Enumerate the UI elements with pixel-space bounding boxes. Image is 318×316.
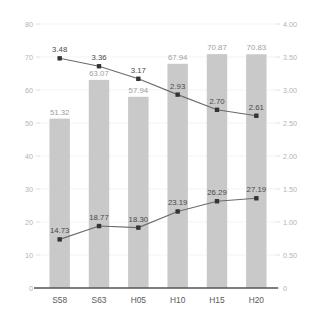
right-axis-tick-label: 4.00: [283, 20, 297, 29]
bar-value-label: 57.94: [129, 86, 149, 95]
bar-value-label: 70.83: [247, 43, 267, 52]
line-value-label: 2.93: [170, 82, 185, 91]
line-value-label: 26.29: [207, 188, 227, 197]
left-axis-tick-label: 20: [25, 218, 33, 227]
left-axis-tick-label: 40: [25, 152, 33, 161]
line-marker: [136, 225, 140, 229]
line-marker: [215, 108, 219, 112]
left-axis-tick-label: 80: [25, 20, 33, 29]
line-value-label: 3.17: [131, 66, 146, 75]
left-axis-tick-label: 60: [25, 86, 33, 95]
bar: [128, 97, 148, 288]
left-axis-tick-label: 10: [25, 251, 33, 260]
bar: [246, 54, 266, 288]
line-marker: [175, 92, 179, 96]
right-axis-tick-label: 0.50: [283, 251, 297, 260]
category-label: H15: [209, 295, 225, 305]
category-label: S58: [52, 295, 67, 305]
bar-value-labels-group: 51.3263.0757.9467.9470.8770.83: [50, 43, 266, 117]
line-marker: [136, 77, 140, 81]
category-label: H20: [249, 295, 265, 305]
right-axis-tick-label: 3.50: [283, 53, 297, 62]
line-marker: [97, 64, 101, 68]
line-value-label: 2.70: [209, 97, 225, 106]
right-axis-tick-label: 1.00: [283, 218, 297, 227]
bar-value-label: 67.94: [168, 53, 188, 62]
gridlines-group: [40, 24, 276, 255]
chart-container: 01020304050607080 00.501.001.502.002.503…: [0, 0, 318, 316]
right-axis-tick-label: 2.00: [283, 152, 297, 161]
line-marker: [97, 224, 101, 228]
right-axis-tick-label: 1.50: [283, 185, 297, 194]
line-marker: [57, 237, 61, 241]
line-value-label: 23.19: [168, 198, 188, 207]
category-label: H10: [170, 295, 186, 305]
line-marker: [254, 196, 258, 200]
left-axis-tick-label: 70: [25, 53, 33, 62]
line-value-labels-group: 3.483.363.172.932.702.6114.7318.7718.302…: [50, 45, 266, 235]
right-axis-tick-label: 0: [283, 284, 287, 293]
line-upper-group: [57, 56, 258, 118]
category-label: H05: [131, 295, 147, 305]
line-value-label: 18.30: [129, 215, 149, 224]
line-value-label: 18.77: [89, 213, 109, 222]
bar: [49, 119, 69, 288]
line-value-label: 27.19: [247, 185, 267, 194]
dual-axis-bar-line-chart: 01020304050607080 00.501.001.502.002.503…: [0, 0, 318, 316]
line-marker: [254, 114, 258, 118]
line-marker: [57, 56, 61, 60]
left-axis-tick-label: 30: [25, 185, 33, 194]
bar: [207, 54, 227, 288]
line-value-label: 2.61: [249, 103, 264, 112]
line-value-label: 3.36: [91, 53, 106, 62]
left-axis-tick-label: 50: [25, 119, 33, 128]
bar: [89, 80, 109, 288]
bar-value-label: 51.32: [50, 108, 70, 117]
line-lower-group: [57, 196, 258, 242]
right-axis-ticks-group: 00.501.001.502.002.503.003.504.00: [276, 20, 297, 293]
bar-value-label: 63.07: [89, 69, 109, 78]
bar-value-label: 70.87: [207, 43, 227, 52]
category-label: S63: [92, 295, 107, 305]
left-axis-tick-label: 0: [29, 284, 33, 293]
line-marker: [175, 209, 179, 213]
category-labels-group: S58S63H05H10H15H20: [52, 295, 264, 305]
line-value-label: 14.73: [50, 226, 70, 235]
right-axis-tick-label: 2.50: [283, 119, 297, 128]
bars-group: [49, 54, 266, 288]
right-axis-tick-label: 3.00: [283, 86, 297, 95]
left-axis-ticks-group: 01020304050607080: [25, 20, 40, 293]
line-marker: [215, 199, 219, 203]
line-value-label: 3.48: [52, 45, 67, 54]
